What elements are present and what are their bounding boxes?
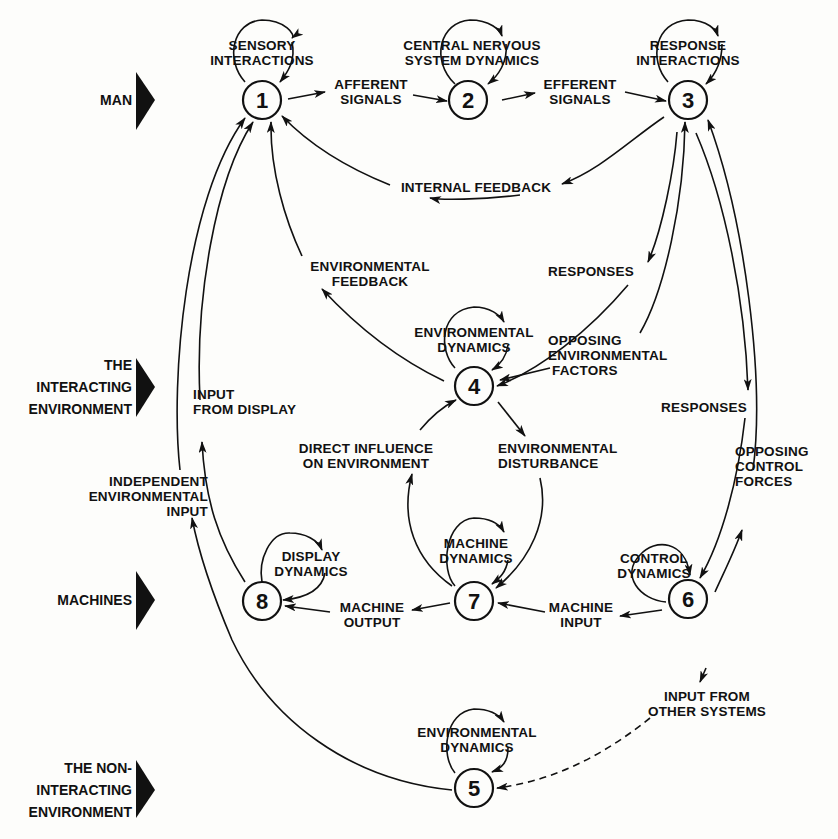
edge-3-to-internal-feedback [562,117,664,184]
node-7-number: 7 [468,589,480,614]
edge-other-systems-arrow [700,668,706,682]
label-machine-output: MACHINE OUTPUT [340,600,404,630]
edge-env-feedback-to-1 [271,122,302,256]
edge-internal-feedback-curve [430,195,520,199]
label-cns-dynamics: CENTRAL NERVOUS SYSTEM DYNAMICS [403,38,541,68]
edge-3-to-responses [648,132,677,262]
node-6-number: 6 [682,587,694,612]
edge-2-to-efferent [502,93,535,100]
label-environmental-feedback: ENVIRONMENTAL FEEDBACK [310,259,429,289]
label-machine-input: MACHINE INPUT [549,600,613,630]
label-sensory-interactions: SENSORY INTERACTIONS [210,38,314,68]
edge-independent-input-to-1 [177,118,245,470]
row-arrow-interacting-icon [136,358,155,417]
edge-7-to-direct-influence [408,474,452,586]
edge-afferent-to-2 [413,95,447,101]
label-input-from-display: INPUT FROM DISPLAY [193,387,296,417]
edge-6-to-machine-input [620,610,662,616]
label-machine-dynamics: MACHINE DYNAMICS [439,536,513,566]
edge-machine-input-to-7 [498,603,545,612]
node-5-number: 5 [468,776,480,801]
label-response-interactions: RESPONSE INTERACTIONS [636,38,740,68]
edge-machine-output-to-8 [285,606,330,612]
row-label-machines: MACHINES [57,589,132,611]
row-label-man: MAN [100,89,132,111]
edge-direct-influence-to-4 [420,400,456,430]
edge-4-to-env-disturbance [498,402,525,436]
label-input-from-other-systems: INPUT FROM OTHER SYSTEMS [648,689,766,719]
node-4-number: 4 [468,374,481,399]
edge-opposing-control-to-3 [708,120,756,470]
node-8-number: 8 [256,589,268,614]
man-machine-environment-diagram: 1 2 3 4 5 6 7 8 MAN THE INTERACTING ENVI… [0,0,838,839]
label-efferent-signals: EFFERENT SIGNALS [544,77,617,107]
edge-3-to-responses-right [696,133,748,390]
edge-internal-feedback-to-1 [282,116,390,185]
node-1-number: 1 [256,88,268,113]
edge-env-disturbance-to-7 [496,478,543,588]
row-label-interacting-environment: THE INTERACTING ENVIRONMENT [29,354,132,420]
edge-8-to-input-from-display [202,442,245,582]
node-2-number: 2 [462,88,474,113]
node-3-number: 3 [682,88,694,113]
label-env-dynamics-4: ENVIRONMENTAL DYNAMICS [414,325,533,355]
label-control-dynamics: CONTROL DYNAMICS [617,551,691,581]
label-afferent-signals: AFFERENT SIGNALS [334,77,408,107]
edge-input-from-display-to-1 [199,122,253,400]
label-direct-influence: DIRECT INFLUENCE ON ENVIRONMENT [299,441,433,471]
row-label-noninteracting-environment: THE NON- INTERACTING ENVIRONMENT [29,757,132,823]
label-opposing-environmental-factors: OPPOSING ENVIRONMENTAL FACTORS [548,333,667,378]
label-internal-feedback: INTERNAL FEEDBACK [401,180,551,195]
edge-1-to-afferent [288,92,325,99]
label-environmental-disturbance: ENVIRONMENTAL DISTURBANCE [498,441,617,471]
edge-opposing-env-to-3 [640,122,685,333]
label-responses-upper: RESPONSES [548,264,634,279]
label-independent-environmental-input: INDEPENDENT ENVIRONMENTAL INPUT [89,474,208,519]
row-arrow-noninteracting-icon [136,760,155,818]
edge-factors-to-4 [500,368,550,380]
edge-6-to-opposing-control [715,530,742,592]
row-arrow-machines-icon [136,571,155,630]
edge-efferent-to-3 [625,92,666,101]
row-arrow-man-icon [136,72,155,130]
edge-responses-right-to-6 [700,418,745,578]
label-display-dynamics: DISPLAY DYNAMICS [274,549,348,579]
edge-7-to-machine-output [412,603,450,610]
label-responses-right: RESPONSES [661,400,747,415]
label-env-dynamics-5: ENVIRONMENTAL DYNAMICS [417,725,536,755]
label-opposing-control-forces: OPPOSING CONTROL FORCES [735,444,809,489]
